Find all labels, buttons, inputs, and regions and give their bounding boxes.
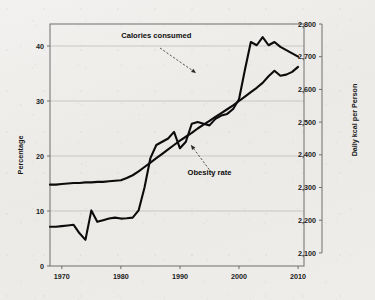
y2-tick-label-2200: 2,200 [298,216,316,225]
annotation-arrowhead-calories-consumed [191,69,196,73]
x-tick-label-2000: 2000 [231,272,247,281]
y-tick-label-0: 0 [40,262,44,271]
y2-tick-label-2100: 2,100 [298,249,316,258]
y-tick-label-10: 10 [36,207,44,216]
bottom-axis: 19701980199020002010 [54,266,306,281]
chart-svg: 010203040 19701980199020002010 2,1002,20… [0,0,375,300]
annotation-label-calories-consumed: Calories consumed [121,31,191,40]
annotation-arrowhead-obesity-rate [191,145,195,150]
y2-tick-label-2600: 2,600 [298,85,316,94]
y2-tick-label-2700: 2,700 [298,52,316,61]
y-tick-label-20: 20 [36,152,44,161]
y-axis-title: Percentage [16,136,25,175]
y-tick-label-40: 40 [36,42,44,51]
y2-axis-title: Daily kcal per Person [350,84,359,157]
series-line-obesity-rate [50,67,298,185]
series-group [50,37,298,240]
annotations-group: Calories consumedObesity rate [121,31,231,178]
x-tick-label-1980: 1980 [113,272,129,281]
right-axis: 2,1002,2002,3002,4002,5002,6002,7002,800 [298,20,322,258]
left-axis: 010203040 [36,42,50,271]
annotation-leader-calories-consumed [160,48,196,73]
x-tick-label-2010: 2010 [290,272,306,281]
x-tick-label-1990: 1990 [172,272,188,281]
series-line-calories-consumed [50,37,298,240]
y2-tick-label-2500: 2,500 [298,118,316,127]
gridlines-group [50,46,304,211]
y2-tick-label-2800: 2,800 [298,20,316,29]
annotation-label-obesity-rate: Obesity rate [188,168,232,177]
y-tick-label-30: 30 [36,97,44,106]
chart-figure: 010203040 19701980199020002010 2,1002,20… [0,0,375,300]
y2-tick-label-2300: 2,300 [298,183,316,192]
x-tick-label-1970: 1970 [54,272,70,281]
y2-tick-label-2400: 2,400 [298,150,316,159]
